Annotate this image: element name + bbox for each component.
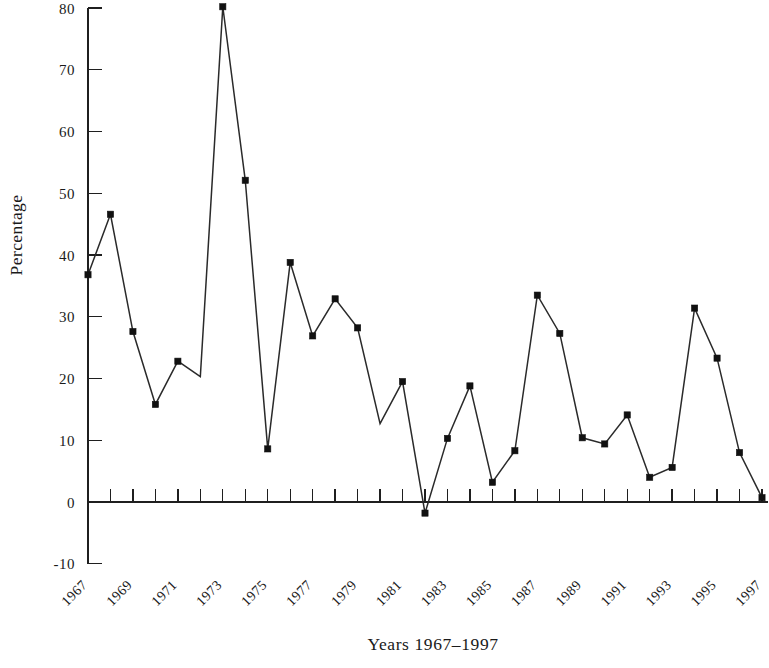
x-tick-label: 1981 [373,577,405,609]
data-point-marker [512,448,518,454]
series-path [88,7,762,513]
x-axis-title: Years 1967–1997 [367,634,498,654]
data-point-marker [287,259,293,265]
y-tick-label: 80 [59,1,75,17]
data-point-marker [310,333,316,339]
y-tick-label: 60 [59,124,75,140]
x-tick-label: 1997 [733,577,765,609]
y-tick-label: 30 [59,309,75,325]
data-point-marker [647,474,653,480]
data-point-marker [759,495,765,501]
data-point-marker [692,305,698,311]
y-tick-label: 0 [67,495,75,511]
x-tick-label: 1973 [193,577,225,609]
data-point-marker [220,4,226,10]
data-point-marker [714,355,720,361]
y-tick-label: -10 [54,556,76,572]
chart-axes [88,8,768,564]
x-tick-label: 1979 [328,577,360,609]
data-point-marker [579,435,585,441]
x-axis-tick-labels: 1967196919711973197519771979198119831985… [59,577,765,609]
data-point-marker [467,383,473,389]
x-axis-ticks [88,489,762,502]
x-tick-label: 1987 [508,577,540,609]
data-point-marker [669,464,675,470]
y-axis-ticks [88,8,102,564]
data-point-marker [534,292,540,298]
data-point-marker [242,177,248,183]
data-series-line [88,7,762,513]
data-point-marker [489,479,495,485]
data-point-marker [399,378,405,384]
x-tick-label: 1977 [283,577,315,609]
x-tick-label: 1985 [463,577,495,609]
y-tick-label: 20 [59,371,75,387]
data-point-marker [736,450,742,456]
y-tick-label: 70 [59,62,75,78]
y-axis-title: Percentage [6,195,26,276]
data-point-marker [557,330,563,336]
x-tick-label: 1989 [553,577,585,609]
y-axis-tick-labels: 80706050403020100-10 [54,1,76,573]
data-point-marker [355,325,361,331]
data-point-marker [107,211,113,217]
chart-figure: 80706050403020100-10 1967196919711973197… [0,0,769,668]
x-tick-label: 1995 [688,577,720,609]
data-point-marker [444,435,450,441]
y-tick-label: 40 [59,248,75,264]
line-chart-svg: 80706050403020100-10 1967196919711973197… [0,0,769,668]
x-tick-label: 1983 [418,577,450,609]
x-tick-label: 1975 [238,577,270,609]
data-point-markers [85,4,765,517]
x-tick-label: 1969 [104,577,136,609]
data-point-marker [152,401,158,407]
data-point-marker [624,412,630,418]
data-point-marker [265,446,271,452]
x-tick-label: 1991 [598,577,630,609]
data-point-marker [175,358,181,364]
data-point-marker [602,441,608,447]
y-tick-label: 50 [59,186,75,202]
data-point-marker [332,296,338,302]
x-tick-label: 1993 [643,577,675,609]
data-point-marker [422,510,428,516]
data-point-marker [85,272,91,278]
x-tick-label: 1967 [59,577,91,609]
y-tick-label: 10 [59,433,75,449]
x-tick-label: 1971 [148,577,180,609]
data-point-marker [130,328,136,334]
